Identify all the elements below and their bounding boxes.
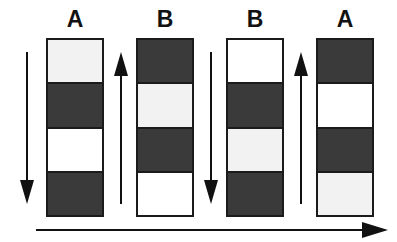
bar-3-segment-2 [228,82,282,126]
bar-1-segment-1 [48,40,102,82]
column-label-1: A [46,5,104,33]
arrow-up-icon-2 [290,52,312,204]
bar-4-segment-3 [318,127,372,171]
bar-3-segment-3 [228,127,282,171]
figure-canvas: A B B A [0,0,397,242]
column-label-2: B [136,5,194,33]
bar-4-segment-2 [318,82,372,126]
arrow-down-icon-1 [16,52,38,204]
bar-1-segment-2 [48,82,102,126]
bar-2-segment-3 [138,127,192,171]
stacked-bar-3 [226,38,284,217]
arrow-up-icon-1 [110,52,132,204]
bar-3-segment-4 [228,171,282,215]
arrow-down-icon-2 [200,52,222,204]
column-label-4: A [316,5,374,33]
bar-1-segment-4 [48,171,102,215]
bar-4-segment-4 [318,171,372,215]
arrow-right-icon [36,220,388,240]
stacked-bar-4 [316,38,374,217]
bar-4-segment-1 [318,40,372,82]
bar-2-segment-4 [138,171,192,215]
bar-3-segment-1 [228,40,282,82]
stacked-bar-2 [136,38,194,217]
bar-2-segment-2 [138,82,192,126]
bar-1-segment-3 [48,127,102,171]
column-label-3: B [226,5,284,33]
stacked-bar-1 [46,38,104,217]
bar-2-segment-1 [138,40,192,82]
